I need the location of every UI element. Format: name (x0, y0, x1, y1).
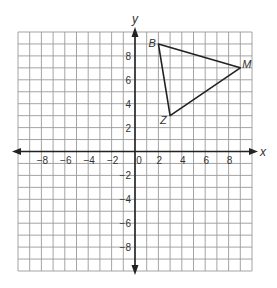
coordinate-plane: −8−6−4−2024688642−2−4−6−8 BMZ x y (0, 0, 277, 288)
x-tick-label: 4 (180, 155, 186, 166)
y-tick-label: 2 (125, 123, 131, 134)
x-axis-left-arrow-icon (12, 148, 21, 155)
y-tick-label: −4 (120, 194, 132, 205)
x-tick-label: 6 (203, 155, 209, 166)
y-tick-label: −6 (120, 218, 132, 229)
y-tick-label: 4 (125, 99, 131, 110)
y-axis-label: y (131, 12, 139, 26)
axes (12, 27, 258, 275)
y-axis-down-arrow-icon (132, 265, 139, 275)
y-tick-label: −2 (120, 170, 132, 181)
x-tick-label: −2 (107, 155, 119, 166)
x-axis-right-arrow-icon (249, 148, 258, 155)
x-tick-label: 0 (136, 155, 142, 166)
y-tick-label: −8 (120, 242, 132, 253)
vertex-label-m: M (242, 58, 252, 70)
x-tick-label: 8 (227, 155, 233, 166)
x-tick-label: −4 (83, 155, 95, 166)
y-tick-label: 6 (125, 75, 131, 86)
y-tick-label: 8 (125, 51, 131, 62)
x-tick-label: 2 (157, 155, 163, 166)
triangle-bmz: BMZ (148, 37, 252, 126)
x-tick-label: −8 (37, 155, 49, 166)
x-tick-label: −6 (60, 155, 72, 166)
x-axis-label: x (259, 145, 267, 159)
vertex-label-b: B (148, 37, 155, 49)
vertex-label-z: Z (159, 114, 168, 126)
